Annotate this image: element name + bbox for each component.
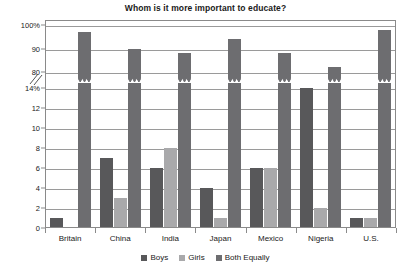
bar-break-icon bbox=[328, 77, 341, 83]
y-axis-tick-mark bbox=[41, 208, 45, 209]
x-axis-tick-mark bbox=[145, 228, 146, 233]
bar-girls-india bbox=[164, 148, 177, 227]
x-axis-label-us: U.S. bbox=[363, 234, 379, 243]
legend-item-boys[interactable]: Boys bbox=[141, 253, 168, 262]
x-axis-label-japan: Japan bbox=[210, 234, 232, 243]
bar-boys-us bbox=[350, 218, 363, 227]
bar-boys-india bbox=[150, 168, 163, 227]
bar-break-icon bbox=[178, 77, 191, 83]
bar-break-icon bbox=[78, 77, 91, 83]
y-axis-tick-mark bbox=[41, 148, 45, 149]
x-axis-label-mexico: Mexico bbox=[258, 234, 283, 243]
legend-label: Boys bbox=[150, 253, 168, 262]
bar-break-icon bbox=[278, 77, 291, 83]
legend-swatch-icon bbox=[179, 255, 185, 261]
legend-item-girls[interactable]: Girls bbox=[179, 253, 204, 262]
gridline bbox=[46, 89, 395, 90]
gridline bbox=[46, 169, 395, 170]
y-axis-tick-label: 2 bbox=[0, 204, 40, 213]
bar-girls-us bbox=[364, 218, 377, 227]
bar-both-equally-japan bbox=[228, 39, 241, 227]
y-axis-tick-label: 4 bbox=[0, 184, 40, 193]
bar-break-icon bbox=[128, 77, 141, 83]
y-axis-tick-mark bbox=[41, 108, 45, 109]
chart-container: Whom is it more important to educate? 02… bbox=[0, 0, 411, 273]
bar-girls-nigeria bbox=[314, 208, 327, 227]
y-axis-tick-mark bbox=[41, 72, 45, 73]
y-axis-tick-label: 10 bbox=[0, 124, 40, 133]
x-axis-tick-mark bbox=[396, 228, 397, 233]
legend-label: Both Equally bbox=[225, 253, 270, 262]
gridline bbox=[46, 73, 395, 74]
x-axis-label-nigeria: Nigeria bbox=[308, 234, 333, 243]
legend-swatch-icon bbox=[216, 255, 222, 261]
y-axis-tick-label: 8 bbox=[0, 144, 40, 153]
bar-both-equally-china bbox=[128, 49, 141, 228]
chart-legend: BoysGirlsBoth Equally bbox=[0, 253, 411, 262]
bar-boys-nigeria bbox=[300, 88, 313, 227]
bar-boys-japan bbox=[200, 188, 213, 227]
x-axis-tick-mark bbox=[195, 228, 196, 233]
bar-both-equally-britain bbox=[78, 32, 91, 227]
bar-boys-britain bbox=[50, 218, 63, 227]
x-axis-label-china: China bbox=[110, 234, 131, 243]
y-axis-tick-label: 90 bbox=[0, 44, 40, 53]
bar-both-equally-us bbox=[378, 30, 391, 227]
y-axis-tick-label: 12 bbox=[0, 104, 40, 113]
x-axis-tick-mark bbox=[95, 228, 96, 233]
y-axis-tick-label: 6 bbox=[0, 164, 40, 173]
x-axis-label-india: India bbox=[162, 234, 179, 243]
x-axis-tick-mark bbox=[296, 228, 297, 233]
y-axis-tick-mark bbox=[41, 128, 45, 129]
y-axis-tick-mark bbox=[41, 88, 45, 89]
bar-boys-mexico bbox=[250, 168, 263, 227]
x-axis-tick-mark bbox=[246, 228, 247, 233]
bar-girls-mexico bbox=[264, 168, 277, 227]
legend-swatch-icon bbox=[141, 255, 147, 261]
y-axis-tick-mark bbox=[41, 25, 45, 26]
plot-area bbox=[45, 20, 396, 228]
bar-break-icon bbox=[378, 77, 391, 83]
bar-break-icon bbox=[228, 77, 241, 83]
bar-girls-japan bbox=[214, 218, 227, 227]
bar-boys-china bbox=[100, 158, 113, 227]
gridline bbox=[46, 109, 395, 110]
legend-item-both-equally[interactable]: Both Equally bbox=[216, 253, 270, 262]
gridline bbox=[46, 149, 395, 150]
y-axis-tick-label: 100% bbox=[0, 21, 40, 30]
bar-girls-china bbox=[114, 198, 127, 227]
gridline bbox=[46, 209, 395, 210]
y-axis-tick-mark bbox=[41, 188, 45, 189]
gridline bbox=[46, 50, 395, 51]
gridline bbox=[46, 189, 395, 190]
axis-break-icon bbox=[28, 74, 44, 86]
y-axis-tick-mark bbox=[41, 48, 45, 49]
x-axis-label-britain: Britain bbox=[59, 234, 82, 243]
chart-title: Whom is it more important to educate? bbox=[0, 3, 411, 13]
legend-label: Girls bbox=[188, 253, 204, 262]
gridline bbox=[46, 26, 395, 27]
x-axis-tick-mark bbox=[45, 228, 46, 233]
y-axis-tick-mark bbox=[41, 168, 45, 169]
y-axis-tick-label: 0 bbox=[0, 224, 40, 233]
bar-both-equally-nigeria bbox=[328, 67, 341, 227]
x-axis-tick-mark bbox=[346, 228, 347, 233]
gridline bbox=[46, 129, 395, 130]
